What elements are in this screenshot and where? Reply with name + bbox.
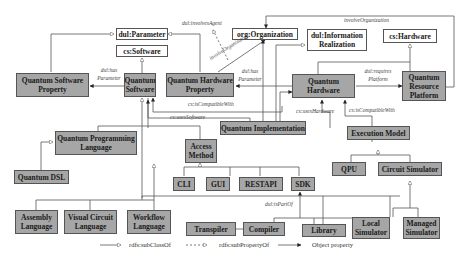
edge-label-has-parameter-software: dul:has Parameter [97,66,121,82]
node-workflow-language: Workflow Language [127,210,171,234]
node-local-simulator: Local Simulator [352,217,390,239]
node-label: QPU [341,165,357,174]
edge-label-is-compatible-with-hardware: cs:isCompatibleWith [349,107,395,113]
node-assembly-language: Assembly Language [15,210,58,234]
edge-label-is-compatible-with-software: cs:isCompatibleWith [188,101,234,107]
node-quantum-dsl: Quantum DSL [14,170,69,184]
node-label: Access Method [186,142,216,160]
node-label: Quantum Hardware Property [167,76,233,94]
node-restapi: RESTAPI [239,177,283,191]
node-cli: CLI [173,177,195,191]
node-dul-information-realization: dul:Information Realization [307,29,367,51]
node-visual-circuit-language: Visual Circuit Language [64,210,117,234]
node-dul-parameter: dul:Parameter [116,28,168,40]
node-qpu: QPU [332,162,366,176]
node-managed-simulator: Managed Simulator [403,217,440,239]
node-label: Library [311,226,336,235]
node-label: Quantum DSL [18,173,65,182]
node-gui: GUI [206,177,230,191]
edge-label-has-parameter-hardware: dul:has Parameter [236,67,264,83]
node-access-method: Access Method [185,139,217,163]
node-cs-hardware: cs:Hardware [383,29,437,43]
node-label: Workflow Language [128,213,170,231]
node-label: Managed Simulator [404,219,439,237]
edge-label-involves-agent: dul:involvesAgent [182,20,222,26]
node-label: Quantum Resource Platform [403,73,445,100]
node-label: Transpiler [194,225,228,234]
node-quantum-hardware: Quantum Hardware [292,74,355,98]
node-label: SDK [295,180,310,189]
node-label: Execution Model [351,129,405,138]
node-label: cs:Hardware [389,32,431,41]
edge-label-uses-hardware: cs:usesHardware [296,108,334,114]
node-cs-software: cs:Software [116,45,168,57]
node-label: Quantum Programming Language [56,134,136,152]
node-label: Circuit Simulator [382,165,439,174]
ontology-diagram: dul:Parameter cs:Software org:Organizati… [0,0,470,259]
node-quantum-implementation: Quantum Implementation [220,121,306,135]
node-label: Quantum Software [125,76,156,94]
node-compiler: Compiler [243,222,285,236]
edge-label-is-part-of: dul:isPartOf [265,201,293,207]
legend-subclass-of: rdfs:subClassOf [129,241,171,248]
node-quantum-resource-platform: Quantum Resource Platform [402,71,446,101]
legend-subproperty-of: rdfs:subPropertyOf [219,241,269,248]
node-sdk: SDK [291,177,315,191]
node-quantum-programming-language: Quantum Programming Language [55,131,137,155]
edge-label-requires-platform: dul:requires Platform [364,67,392,83]
node-label: cs:Software [123,47,160,56]
node-transpiler: Transpiler [186,222,236,236]
node-label: dul:Information Realization [308,31,366,49]
node-label: Compiler [249,225,279,234]
edge-label-involves-organization-top: involveOrganization [344,17,389,23]
node-label: Visual Circuit Language [65,213,116,231]
node-label: Quantum Implementation [221,124,305,133]
node-label: CLI [177,180,190,189]
node-label: Assembly Language [16,213,57,231]
node-quantum-software: Quantum Software [124,73,156,97]
node-circuit-simulator: Circuit Simulator [378,162,442,176]
node-quantum-software-property: Quantum Software Property [16,73,89,97]
node-label: RESTAPI [245,180,277,189]
node-label: dul:Parameter [118,30,165,39]
edge-label-uses-software: cs:usesSoftware [170,114,205,120]
node-execution-model: Execution Model [347,126,410,140]
node-quantum-hardware-property: Quantum Hardware Property [166,73,234,97]
node-label: Quantum Software Property [17,76,88,94]
node-label: Local Simulator [353,219,389,237]
node-label: Quantum Hardware [293,77,354,95]
node-library: Library [302,224,346,237]
legend-object-property: Object property [312,241,353,248]
node-label: GUI [211,180,225,189]
